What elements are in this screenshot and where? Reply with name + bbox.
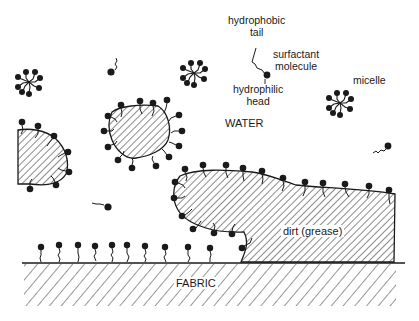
micelle-3: [326, 90, 354, 118]
label-fabric: FABRIC: [174, 277, 218, 289]
surfactant-free-1: [107, 58, 117, 76]
micelle-2: [180, 60, 208, 88]
label-dirt-grease: dirt (grease): [281, 225, 344, 237]
label-hydrophobic-tail: hydrophobic tail: [228, 14, 285, 38]
label-micelle: micelle: [353, 74, 386, 86]
surfactant-free-2: [373, 143, 391, 153]
label-surfactant-molecule: surfactant molecule: [273, 48, 319, 72]
micelle-1: [15, 69, 43, 97]
surfactant-diagram: [0, 0, 419, 321]
attached-grease: [171, 162, 395, 262]
grease-droplet-left: [18, 119, 72, 193]
label-hydrophilic-head: hydrophilic head: [233, 83, 283, 107]
grease-droplet-center: [101, 97, 186, 172]
surfactant-free-3: [92, 203, 112, 211]
label-water: WATER: [225, 117, 264, 129]
surfactants-on-fabric: [38, 242, 213, 262]
surfactant-free-legend: [252, 48, 270, 84]
